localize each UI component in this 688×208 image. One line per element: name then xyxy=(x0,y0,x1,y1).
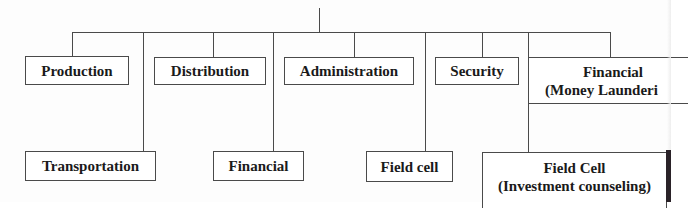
node-security: Security xyxy=(435,57,519,85)
connector-field-cell xyxy=(425,32,426,151)
node-administration-label: Administration xyxy=(300,62,398,80)
connector-transportation xyxy=(143,32,144,151)
node-field-cell-ic-line1: Field Cell xyxy=(543,159,605,177)
connector-distribution xyxy=(213,32,214,57)
node-transportation-label: Transportation xyxy=(42,157,139,175)
connector-financial xyxy=(273,32,274,151)
node-distribution: Distribution xyxy=(154,57,266,85)
root-stem-line xyxy=(319,8,320,32)
page-edge-dark-strip xyxy=(666,150,671,202)
node-distribution-label: Distribution xyxy=(171,62,249,80)
node-production-label: Production xyxy=(41,62,112,80)
node-financial-ml-line2: (Money Launderi xyxy=(545,81,658,99)
node-financial-ml-line1: Financial xyxy=(545,63,643,81)
node-production: Production xyxy=(25,56,129,85)
connector-security xyxy=(482,32,483,57)
node-field-cell-label: Field cell xyxy=(381,158,439,176)
connector-financial-ml xyxy=(610,32,611,57)
main-bus-line xyxy=(72,32,611,33)
node-transportation: Transportation xyxy=(25,151,156,181)
node-field-cell-ic-line2: (Investment counseling) xyxy=(498,177,651,195)
connector-administration xyxy=(354,32,355,57)
page-edge-shadow xyxy=(667,0,671,150)
node-field-cell: Field cell xyxy=(366,151,453,182)
node-administration: Administration xyxy=(284,57,414,85)
node-field-cell-investment-counseling: Field Cell (Investment counseling) xyxy=(482,152,667,208)
node-financial-money-laundering: Financial (Money Launderi xyxy=(528,57,688,104)
node-security-label: Security xyxy=(450,62,503,80)
node-financial-label: Financial xyxy=(228,157,288,175)
node-financial: Financial xyxy=(213,151,304,181)
connector-production xyxy=(72,32,73,56)
